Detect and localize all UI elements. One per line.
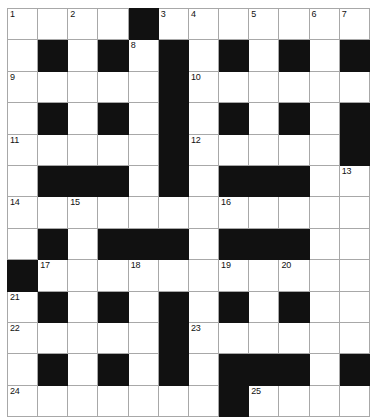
crossword-cell[interactable] bbox=[38, 71, 68, 102]
crossword-cell[interactable] bbox=[309, 354, 339, 385]
crossword-cell[interactable] bbox=[188, 354, 218, 385]
crossword-cell[interactable] bbox=[309, 260, 339, 291]
crossword-cell[interactable] bbox=[68, 134, 98, 165]
crossword-cell[interactable]: 17 bbox=[38, 260, 68, 291]
crossword-cell[interactable]: 8 bbox=[128, 40, 158, 71]
crossword-cell[interactable] bbox=[98, 385, 128, 416]
crossword-cell[interactable]: 4 bbox=[188, 9, 218, 40]
crossword-cell[interactable]: 23 bbox=[188, 323, 218, 354]
crossword-cell[interactable] bbox=[309, 71, 339, 102]
crossword-cell[interactable] bbox=[249, 323, 279, 354]
crossword-cell[interactable] bbox=[38, 323, 68, 354]
crossword-cell[interactable] bbox=[128, 103, 158, 134]
crossword-cell[interactable] bbox=[68, 40, 98, 71]
crossword-cell[interactable] bbox=[68, 260, 98, 291]
crossword-cell[interactable] bbox=[38, 9, 68, 40]
crossword-cell[interactable]: 18 bbox=[128, 260, 158, 291]
crossword-cell[interactable]: 12 bbox=[188, 134, 218, 165]
crossword-cell[interactable]: 3 bbox=[158, 9, 188, 40]
crossword-cell[interactable] bbox=[8, 103, 38, 134]
crossword-cell[interactable] bbox=[128, 71, 158, 102]
crossword-cell[interactable] bbox=[309, 40, 339, 71]
crossword-cell[interactable] bbox=[309, 197, 339, 228]
crossword-cell[interactable]: 20 bbox=[279, 260, 309, 291]
crossword-cell[interactable] bbox=[98, 260, 128, 291]
crossword-cell[interactable] bbox=[68, 385, 98, 416]
crossword-cell[interactable] bbox=[68, 291, 98, 322]
crossword-cell[interactable] bbox=[128, 166, 158, 197]
crossword-cell[interactable] bbox=[98, 323, 128, 354]
crossword-cell[interactable] bbox=[309, 291, 339, 322]
crossword-cell[interactable] bbox=[98, 197, 128, 228]
crossword-cell[interactable]: 2 bbox=[68, 9, 98, 40]
crossword-cell[interactable] bbox=[309, 134, 339, 165]
crossword-cell[interactable] bbox=[188, 228, 218, 259]
crossword-cell[interactable] bbox=[339, 291, 369, 322]
crossword-cell[interactable] bbox=[8, 40, 38, 71]
crossword-cell[interactable] bbox=[188, 291, 218, 322]
crossword-grid[interactable]: 1234567891011121314151617181920212223242… bbox=[7, 8, 370, 417]
crossword-cell[interactable]: 13 bbox=[339, 166, 369, 197]
crossword-cell[interactable] bbox=[249, 197, 279, 228]
crossword-cell[interactable] bbox=[339, 260, 369, 291]
crossword-cell[interactable] bbox=[219, 71, 249, 102]
crossword-cell[interactable] bbox=[68, 354, 98, 385]
crossword-cell[interactable]: 16 bbox=[219, 197, 249, 228]
crossword-cell[interactable] bbox=[279, 323, 309, 354]
crossword-cell[interactable] bbox=[309, 166, 339, 197]
crossword-cell[interactable] bbox=[98, 9, 128, 40]
crossword-cell[interactable] bbox=[128, 354, 158, 385]
crossword-cell[interactable] bbox=[339, 385, 369, 416]
crossword-cell[interactable] bbox=[68, 228, 98, 259]
crossword-cell[interactable] bbox=[309, 103, 339, 134]
crossword-cell[interactable] bbox=[279, 9, 309, 40]
crossword-cell[interactable] bbox=[249, 260, 279, 291]
crossword-cell[interactable] bbox=[309, 385, 339, 416]
crossword-cell[interactable] bbox=[188, 166, 218, 197]
crossword-cell[interactable] bbox=[98, 71, 128, 102]
crossword-cell[interactable] bbox=[249, 291, 279, 322]
crossword-cell[interactable] bbox=[128, 197, 158, 228]
crossword-cell[interactable] bbox=[128, 323, 158, 354]
crossword-cell[interactable]: 15 bbox=[68, 197, 98, 228]
crossword-cell[interactable]: 5 bbox=[249, 9, 279, 40]
crossword-cell[interactable] bbox=[158, 197, 188, 228]
crossword-cell[interactable] bbox=[279, 385, 309, 416]
crossword-cell[interactable] bbox=[219, 323, 249, 354]
crossword-cell[interactable] bbox=[219, 9, 249, 40]
crossword-cell[interactable] bbox=[279, 134, 309, 165]
crossword-cell[interactable] bbox=[128, 291, 158, 322]
crossword-cell[interactable]: 21 bbox=[8, 291, 38, 322]
crossword-cell[interactable] bbox=[249, 103, 279, 134]
crossword-cell[interactable]: 7 bbox=[339, 9, 369, 40]
crossword-cell[interactable] bbox=[38, 385, 68, 416]
crossword-cell[interactable] bbox=[8, 166, 38, 197]
crossword-cell[interactable] bbox=[339, 197, 369, 228]
crossword-cell[interactable] bbox=[158, 385, 188, 416]
crossword-cell[interactable] bbox=[309, 323, 339, 354]
crossword-cell[interactable]: 24 bbox=[8, 385, 38, 416]
crossword-cell[interactable] bbox=[249, 40, 279, 71]
crossword-cell[interactable] bbox=[279, 71, 309, 102]
crossword-cell[interactable] bbox=[219, 134, 249, 165]
crossword-cell[interactable] bbox=[68, 103, 98, 134]
crossword-cell[interactable]: 10 bbox=[188, 71, 218, 102]
crossword-cell[interactable] bbox=[249, 71, 279, 102]
crossword-cell[interactable] bbox=[8, 228, 38, 259]
crossword-cell[interactable] bbox=[188, 260, 218, 291]
crossword-cell[interactable] bbox=[188, 197, 218, 228]
crossword-cell[interactable] bbox=[68, 71, 98, 102]
crossword-cell[interactable] bbox=[98, 134, 128, 165]
crossword-cell[interactable] bbox=[188, 103, 218, 134]
crossword-cell[interactable]: 19 bbox=[219, 260, 249, 291]
crossword-cell[interactable] bbox=[188, 40, 218, 71]
crossword-cell[interactable] bbox=[309, 228, 339, 259]
crossword-cell[interactable] bbox=[188, 385, 218, 416]
crossword-cell[interactable]: 14 bbox=[8, 197, 38, 228]
crossword-cell[interactable] bbox=[8, 354, 38, 385]
crossword-cell[interactable] bbox=[279, 197, 309, 228]
crossword-cell[interactable] bbox=[128, 134, 158, 165]
crossword-cell[interactable] bbox=[38, 134, 68, 165]
crossword-cell[interactable] bbox=[128, 385, 158, 416]
crossword-cell[interactable]: 9 bbox=[8, 71, 38, 102]
